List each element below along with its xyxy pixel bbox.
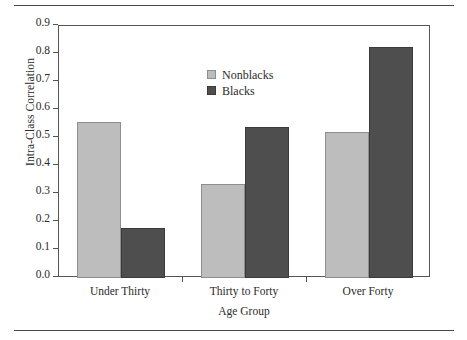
bar-chart-figure: Intra-Class Correlation 0.00.10.20.30.40… [0,0,467,340]
y-axis-tick-label: 0.2 [36,213,50,225]
bar-blacks-thirty-to-forty [245,127,289,278]
legend-item: Nonblacks [207,67,273,82]
y-axis-tick-label: 0.8 [36,45,50,57]
bar-blacks-under-thirty [121,228,165,278]
y-axis-tick-label: 0.9 [36,17,50,29]
x-axis-category-label: Under Thirty [58,285,182,297]
y-axis-tick-label: 0.3 [36,185,50,197]
bar-nonblacks-thirty-to-forty [201,184,245,278]
legend-label: Nonblacks [222,69,273,81]
y-axis-tick-label: 0.1 [36,241,50,253]
y-axis-tick-label: 0.0 [36,269,50,281]
legend-swatch-icon [207,86,216,95]
y-axis-tick-label: 0.7 [36,73,50,85]
x-axis-category-label: Thirty to Forty [182,285,306,297]
legend-item: Blacks [207,83,273,98]
y-axis-tick-label: 0.5 [36,129,50,141]
x-axis-tick-mark [182,277,183,282]
plot-area: NonblacksBlacks [58,25,430,277]
x-axis-tick-mark [306,277,307,282]
legend-swatch-icon [207,70,216,79]
y-axis-title: Intra-Class Correlation [24,12,36,212]
x-axis-title: Age Group [58,305,430,317]
y-axis-tick-label: 0.4 [36,157,50,169]
chart-legend: NonblacksBlacks [207,67,273,99]
bar-blacks-over-forty [369,47,413,278]
x-axis-category-label: Over Forty [306,285,430,297]
bar-nonblacks-under-thirty [77,122,121,278]
bar-nonblacks-over-forty [325,132,369,278]
y-axis-tick-label: 0.6 [36,101,50,113]
legend-label: Blacks [222,85,255,97]
